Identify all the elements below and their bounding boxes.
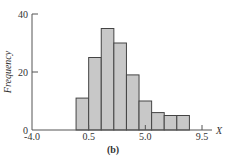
y-tick-label: 40 — [18, 9, 28, 20]
histogram-bar — [126, 75, 139, 130]
histogram-bar — [177, 116, 190, 131]
y-axis-title: Frequency — [2, 50, 13, 94]
x-tick-label: 9.5 — [196, 131, 209, 142]
x-tick-label: -4.0 — [24, 131, 40, 142]
y-tick-label: 20 — [18, 67, 28, 78]
histogram-bar — [114, 43, 127, 130]
histogram-bar — [101, 29, 114, 131]
histogram-bar — [152, 113, 165, 130]
figure-caption: (b) — [107, 144, 119, 156]
histogram-chart: 02040-4.00.55.09.5XFrequency(b) — [0, 0, 226, 159]
x-tick-label: 0.5 — [82, 131, 95, 142]
histogram-bar — [76, 98, 89, 130]
x-axis-title: X — [215, 125, 223, 136]
histogram-bar — [89, 58, 102, 131]
histogram-bar — [164, 116, 177, 131]
x-tick-label: 5.0 — [139, 131, 152, 142]
